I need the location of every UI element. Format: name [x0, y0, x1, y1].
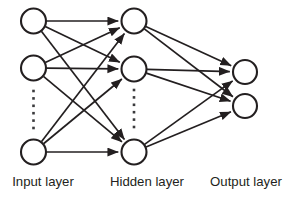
ellipsis-dot-hidden-3 [133, 104, 136, 107]
hidden-layer-label: Hidden layer [110, 174, 185, 189]
neural-network-canvas: Input layer Hidden layer Output layer [0, 0, 291, 198]
input-layer-label: Input layer [12, 174, 74, 189]
edge-h2-to-o2 [146, 73, 230, 101]
neuron-o1 [233, 60, 257, 84]
output-layer-label: Output layer [210, 174, 282, 189]
neuron-i2 [21, 56, 46, 81]
ellipsis-dot-input-2 [32, 97, 35, 100]
edge-h3-to-o2 [146, 112, 231, 147]
edge-h2-to-o1 [147, 69, 230, 71]
ellipsis-dot-hidden-1 [133, 89, 136, 92]
neuron-h3 [122, 140, 147, 165]
edges-group [41, 21, 233, 152]
layer-labels-group: Input layer Hidden layer Output layer [12, 174, 282, 189]
ellipsis-dot-hidden-6 [133, 126, 136, 129]
neuron-h2 [122, 57, 147, 82]
ellipsis-dot-input-4 [32, 112, 35, 115]
ellipsis-dot-input-1 [32, 90, 35, 93]
neural-network-diagram: Input layer Hidden layer Output layer [0, 0, 291, 198]
ellipsis-dot-input-6 [32, 127, 35, 130]
neuron-h1 [122, 9, 147, 34]
neuron-i3 [21, 140, 46, 165]
neuron-i1 [21, 9, 46, 34]
ellipsis-dot-hidden-4 [133, 111, 136, 114]
neuron-o2 [233, 94, 257, 118]
edge-h3-to-o1 [145, 81, 233, 145]
ellipsis-dot-input-5 [32, 119, 35, 122]
ellipsis-dot-hidden-5 [133, 118, 136, 121]
edge-i2-to-h2 [47, 68, 119, 69]
ellipsis-dot-input-3 [32, 105, 35, 108]
edge-h1-to-o1 [146, 26, 231, 65]
ellipsis-dot-hidden-2 [133, 96, 136, 99]
